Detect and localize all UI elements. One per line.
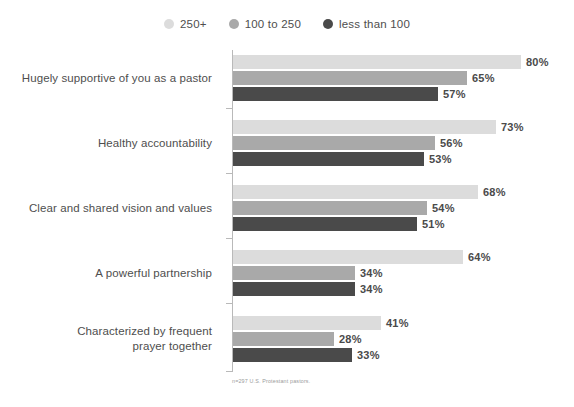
legend-label: less than 100	[339, 18, 410, 30]
category-label-line2: prayer together	[133, 340, 213, 352]
bar-250-plus[interactable]	[233, 120, 496, 134]
bar-chart: 250+ 100 to 250 less than 100 Hugely sup…	[0, 0, 574, 407]
bar-value-label: 53%	[429, 153, 452, 165]
bar-less-than-100[interactable]	[233, 87, 438, 101]
bar-value-label: 54%	[432, 202, 455, 214]
category-label: A powerful partnership	[0, 266, 222, 281]
bar-value-label: 41%	[386, 317, 409, 329]
bar-row[interactable]: 65%	[233, 71, 574, 85]
category-label-line1: Hugely supportive of you as a pastor	[22, 72, 212, 84]
category-label: Characterized by frequent prayer togethe…	[0, 324, 222, 354]
bar-group: Characterized by frequent prayer togethe…	[0, 313, 574, 365]
chart-legend: 250+ 100 to 250 less than 100	[0, 18, 574, 30]
bar-value-label: 80%	[526, 56, 549, 68]
legend-item-100-to-250[interactable]: 100 to 250	[229, 18, 301, 30]
category-label-line1: A powerful partnership	[95, 267, 212, 279]
bar-less-than-100[interactable]	[233, 152, 424, 166]
legend-item-less-than-100[interactable]: less than 100	[323, 18, 410, 30]
bar-less-than-100[interactable]	[233, 348, 352, 362]
bar-row[interactable]: 33%	[233, 348, 574, 362]
legend-item-250-plus[interactable]: 250+	[164, 18, 207, 30]
bar-value-label: 57%	[443, 88, 466, 100]
bar-stack: 80% 65% 57%	[233, 55, 574, 101]
bar-250-plus[interactable]	[233, 55, 521, 69]
bar-row[interactable]: 64%	[233, 250, 574, 264]
bar-250-plus[interactable]	[233, 250, 463, 264]
bar-100-to-250[interactable]	[233, 332, 334, 346]
axis-tick	[226, 238, 233, 239]
legend-swatch-icon	[229, 19, 239, 29]
legend-swatch-icon	[323, 19, 333, 29]
bar-row[interactable]: 34%	[233, 266, 574, 280]
axis-tick	[226, 108, 233, 109]
bar-less-than-100[interactable]	[233, 217, 417, 231]
category-label: Hugely supportive of you as a pastor	[0, 71, 222, 86]
bar-group: A powerful partnership 64% 34% 34%	[0, 247, 574, 299]
bar-value-label: 34%	[360, 267, 383, 279]
bar-100-to-250[interactable]	[233, 71, 467, 85]
bar-value-label: 68%	[483, 186, 506, 198]
axis-tick	[226, 303, 233, 304]
bar-250-plus[interactable]	[233, 316, 381, 330]
bar-row[interactable]: 53%	[233, 152, 574, 166]
category-label-line1: Healthy accountability	[98, 137, 212, 149]
bar-value-label: 33%	[357, 349, 380, 361]
bar-value-label: 56%	[440, 137, 463, 149]
legend-label: 250+	[180, 18, 207, 30]
bar-row[interactable]: 34%	[233, 282, 574, 296]
chart-footnote: n=297 U.S. Protestant pastors.	[232, 378, 310, 384]
bar-less-than-100[interactable]	[233, 282, 355, 296]
bar-row[interactable]: 80%	[233, 55, 574, 69]
category-label-line1: Characterized by frequent	[77, 325, 212, 337]
bar-value-label: 64%	[468, 251, 491, 263]
bar-row[interactable]: 57%	[233, 87, 574, 101]
bar-group: Hugely supportive of you as a pastor 80%…	[0, 52, 574, 104]
bar-row[interactable]: 54%	[233, 201, 574, 215]
bar-value-label: 65%	[472, 72, 495, 84]
legend-label: 100 to 250	[245, 18, 301, 30]
axis-tick	[226, 371, 233, 372]
category-label: Healthy accountability	[0, 136, 222, 151]
plot-area: Hugely supportive of you as a pastor 80%…	[0, 50, 574, 375]
bar-stack: 64% 34% 34%	[233, 250, 574, 296]
bar-value-label: 28%	[339, 333, 362, 345]
bar-group: Healthy accountability 73% 56% 53%	[0, 117, 574, 169]
bar-100-to-250[interactable]	[233, 136, 435, 150]
bar-value-label: 51%	[422, 218, 445, 230]
bar-row[interactable]: 41%	[233, 316, 574, 330]
bar-100-to-250[interactable]	[233, 266, 355, 280]
bar-row[interactable]: 56%	[233, 136, 574, 150]
bar-100-to-250[interactable]	[233, 201, 427, 215]
bar-250-plus[interactable]	[233, 185, 478, 199]
category-label: Clear and shared vision and values	[0, 201, 222, 216]
bar-value-label: 73%	[501, 121, 524, 133]
axis-tick	[226, 173, 233, 174]
category-label-line1: Clear and shared vision and values	[29, 202, 212, 214]
bar-stack: 41% 28% 33%	[233, 316, 574, 362]
bar-group: Clear and shared vision and values 68% 5…	[0, 182, 574, 234]
bar-row[interactable]: 68%	[233, 185, 574, 199]
bar-row[interactable]: 73%	[233, 120, 574, 134]
bar-row[interactable]: 28%	[233, 332, 574, 346]
bar-row[interactable]: 51%	[233, 217, 574, 231]
legend-swatch-icon	[164, 19, 174, 29]
bar-stack: 73% 56% 53%	[233, 120, 574, 166]
bar-stack: 68% 54% 51%	[233, 185, 574, 231]
bar-value-label: 34%	[360, 283, 383, 295]
